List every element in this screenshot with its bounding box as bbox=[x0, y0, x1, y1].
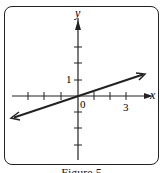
x-axis-label: x bbox=[150, 88, 155, 103]
origin-label: 0 bbox=[80, 98, 86, 110]
x-tick-label-3: 3 bbox=[123, 101, 129, 113]
y-tick-label-1: 1 bbox=[66, 73, 72, 85]
y-axis-label: y bbox=[75, 6, 80, 21]
figure-caption: Figure 5 bbox=[0, 166, 163, 173]
y-axis-arrow-icon bbox=[75, 20, 81, 30]
coordinate-plane bbox=[0, 0, 163, 173]
